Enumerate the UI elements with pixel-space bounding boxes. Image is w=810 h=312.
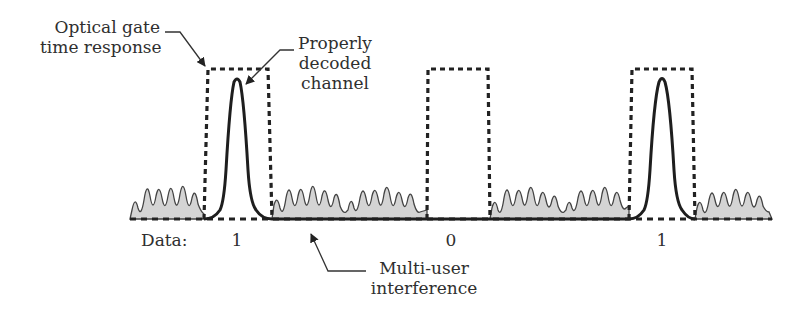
gate-window-2	[427, 69, 490, 219]
properly-decoded-line1: Properly	[290, 33, 380, 53]
optical-gate-arrow	[165, 32, 205, 66]
gate-window-3	[629, 69, 695, 219]
optical-gate-label-line1: Optical gate	[40, 17, 160, 37]
optical-gate-label-line2: time response	[40, 37, 160, 57]
mui-label: Multi-user interference	[364, 258, 484, 298]
properly-decoded-line2: decoded	[290, 53, 380, 73]
data-bit-2: 0	[441, 230, 461, 250]
mui-segment-4	[695, 189, 772, 219]
properly-decoded-line3: channel	[290, 73, 380, 93]
data-bit-3: 1	[652, 230, 672, 250]
mui-segment-2	[272, 186, 427, 219]
optical-gate-windows	[204, 69, 695, 219]
mui-segment-1	[130, 186, 204, 219]
mui-label-line1: Multi-user	[364, 258, 484, 278]
decoded-signal-trace	[204, 79, 695, 220]
optical-gate-label: Optical gate time response	[40, 17, 160, 57]
data-bit-1: 1	[227, 230, 247, 250]
mui-label-line2: interference	[364, 278, 484, 298]
properly-decoded-label: Properly decoded channel	[290, 33, 380, 93]
gate-window-1	[204, 69, 272, 219]
decoded-channel-arrow	[246, 50, 294, 84]
data-row-label: Data:	[141, 230, 187, 250]
mui-segment-3	[490, 187, 629, 219]
mui-arrow	[311, 234, 366, 271]
